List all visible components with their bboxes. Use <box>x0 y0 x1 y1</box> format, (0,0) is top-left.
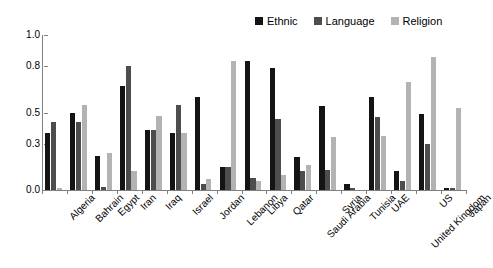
bar <box>319 106 324 190</box>
bar-group <box>369 35 386 190</box>
y-axis-tick: 1.0 <box>2 35 48 36</box>
legend-entry-religion[interactable]: Religion <box>391 16 443 27</box>
bar <box>181 133 186 190</box>
bar-group <box>245 35 262 190</box>
bar <box>95 156 100 190</box>
y-axis-tick-label: 0.5 <box>26 107 40 118</box>
bar-group <box>344 35 361 190</box>
bar <box>400 181 405 190</box>
bar <box>431 57 436 190</box>
bar <box>57 188 62 190</box>
bar <box>344 184 349 190</box>
bar-group <box>95 35 112 190</box>
y-axis-tick-label: 0.0 <box>26 184 40 195</box>
bar <box>231 61 236 190</box>
bar-group <box>294 35 311 190</box>
bar <box>120 86 125 190</box>
bar <box>250 178 255 190</box>
bar <box>225 167 230 190</box>
bar <box>300 171 305 190</box>
x-axis-tick-label: Algeria <box>68 192 98 222</box>
bar <box>70 113 75 191</box>
y-axis-tick: 0.8 <box>2 66 48 67</box>
legend-swatch-icon <box>391 17 399 25</box>
x-axis-line <box>42 190 466 191</box>
legend-label: Ethnic <box>267 16 298 27</box>
bar-group <box>220 35 237 190</box>
bar <box>201 184 206 190</box>
bar <box>419 114 424 190</box>
legend-swatch-icon <box>255 17 263 25</box>
x-axis-tick-label: Iraq <box>163 192 183 212</box>
legend-swatch-icon <box>314 17 322 25</box>
bar <box>270 68 275 190</box>
bar <box>394 171 399 190</box>
y-axis-tick-label: 0.8 <box>26 60 40 71</box>
bar <box>245 61 250 190</box>
bar-group <box>419 35 436 190</box>
bar <box>76 122 81 190</box>
y-axis-tick-label: 0.3 <box>26 138 40 149</box>
bar <box>275 119 280 190</box>
bar <box>456 108 461 190</box>
x-axis-tick-label: Israel <box>190 192 215 217</box>
bar <box>131 171 136 190</box>
bar <box>151 130 156 190</box>
chart-legend: EthnicLanguageReligion <box>255 13 442 29</box>
bar <box>306 165 311 190</box>
bar <box>220 167 225 190</box>
bar <box>82 105 87 190</box>
bar <box>450 188 455 190</box>
legend-label: Language <box>326 16 375 27</box>
bar <box>126 66 131 190</box>
bar-group <box>195 35 212 190</box>
bar-group <box>444 35 461 190</box>
bar <box>45 133 50 190</box>
x-axis-tick-label: Iran <box>138 192 158 212</box>
bar-group <box>70 35 87 190</box>
bar <box>156 116 161 190</box>
bar <box>206 179 211 190</box>
legend-entry-language[interactable]: Language <box>314 16 375 27</box>
legend-label: Religion <box>403 16 443 27</box>
bar <box>444 188 449 190</box>
bar <box>425 144 430 191</box>
bar-group <box>394 35 411 190</box>
bar <box>406 82 411 191</box>
bar <box>107 153 112 190</box>
bar <box>375 117 380 190</box>
bar <box>101 187 106 190</box>
bar <box>369 97 374 190</box>
y-axis-tick: 0.5 <box>2 113 48 114</box>
bar <box>325 170 330 190</box>
x-axis-tick-label: Qatar <box>290 192 315 217</box>
x-axis-tick-label: US <box>437 192 455 210</box>
bar <box>176 105 181 190</box>
bar <box>350 188 355 190</box>
bar <box>294 157 299 190</box>
bar <box>170 133 175 190</box>
bar <box>51 122 56 190</box>
bar-group <box>120 35 137 190</box>
legend-entry-ethnic[interactable]: Ethnic <box>255 16 298 27</box>
bar <box>281 175 286 191</box>
bar-group <box>145 35 162 190</box>
bar <box>256 181 261 190</box>
bar-group <box>170 35 187 190</box>
y-axis-tick: 0.3 <box>2 144 48 145</box>
bar <box>195 97 200 190</box>
plot-area: 0.00.30.50.81.0 <box>42 35 466 190</box>
x-axis-labels: AlgeriaBahrainEgyptIranIraqIsraelJordanL… <box>42 192 471 268</box>
bar <box>381 136 386 190</box>
bar-group <box>319 35 336 190</box>
bar-group <box>270 35 287 190</box>
bar-group <box>45 35 62 190</box>
bar <box>145 130 150 190</box>
y-axis-tick-label: 1.0 <box>26 29 40 40</box>
bar <box>331 137 336 190</box>
x-axis-tick-label: Jordan <box>217 192 246 221</box>
y-axis-tick-mark <box>44 190 48 191</box>
